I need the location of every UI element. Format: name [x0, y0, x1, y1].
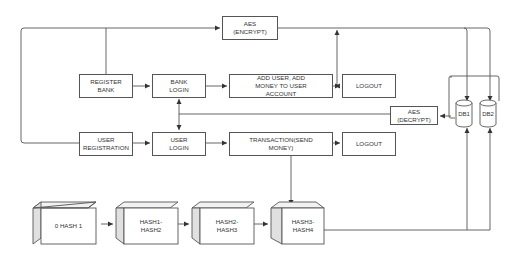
add-user-node: ADD USER, ADD MONEY TO USER ACCOUNT: [229, 74, 333, 98]
user-login-node: USER LOGIN: [152, 132, 206, 156]
hash-block-1: HASH1- HASH2: [124, 208, 178, 244]
logout-top-node: LOGOUT: [342, 74, 396, 98]
hash-block-0: 0 HASH 1: [41, 208, 96, 244]
hash-block-2: HASH2- HASH3: [200, 208, 254, 244]
db1-node: DB1: [456, 111, 472, 117]
register-bank-node: REGISTER BANK: [79, 74, 133, 98]
bank-login-node: BANK LOGIN: [152, 74, 206, 98]
aes-encrypt-node: AES (ENCRYPT): [222, 16, 278, 40]
hash-block-3: HASH3- HASH4: [282, 208, 324, 244]
aes-decrypt-node: AES (DECRYPT): [390, 106, 438, 125]
transaction-node: TRANSACTION(SEND MONEY): [229, 132, 333, 156]
user-registration-node: USER REGISTRATION: [79, 132, 133, 156]
db2-node: DB2: [480, 111, 496, 117]
logout-bottom-node: LOGOUT: [342, 132, 396, 156]
